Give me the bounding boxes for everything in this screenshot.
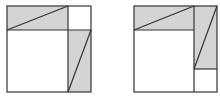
diagram-canvas bbox=[0, 0, 220, 100]
left-figure bbox=[7, 6, 91, 92]
right-figure bbox=[134, 6, 217, 92]
